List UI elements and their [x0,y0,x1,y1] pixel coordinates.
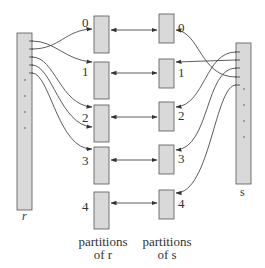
partition-r-index-1: 1 [82,64,89,79]
partitioned-hash-join-diagram: r s 0 1 2 3 4 0 1 2 3 4 [0,0,265,268]
partitions-r-caption-line2: of r [94,247,113,262]
partition-r-index-2: 2 [82,110,89,125]
partition-s-index-3: 3 [178,151,185,166]
partition-s-index-4: 4 [178,196,185,211]
partition-r-index-0: 0 [82,15,89,30]
partition-s-index-2: 2 [178,108,185,123]
partitions-s [159,14,174,219]
partitions-s-caption-line2: of s [157,247,176,262]
relation-r [17,33,33,210]
r-partition-arrows [32,29,92,149]
relation-s-label: s [240,185,245,199]
partition-r-index-4: 4 [82,199,89,214]
partition-r-index-3: 3 [82,153,89,168]
join-arrows [111,30,157,203]
partition-s-index-1: 1 [178,65,185,80]
s-partition-arrows [176,30,236,193]
relation-r-label: r [22,209,27,223]
partitions-r [94,16,109,229]
relation-s [235,43,251,184]
